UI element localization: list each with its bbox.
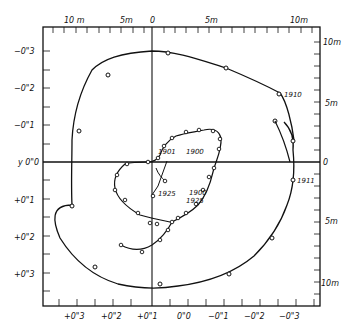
plot-frame (43, 27, 320, 306)
right-label-10m-bottom: 10m (321, 279, 339, 288)
right-label-10m-top: 10m (323, 38, 341, 47)
left-label-plus-0-1: +0"1 (14, 196, 35, 205)
right-ticks (314, 42, 320, 294)
year-label-1901: 1901 (158, 148, 176, 156)
bottom-label-minus-0-2: −0"2 (244, 312, 265, 321)
bottom-label-plus-0-1: +0"1 (137, 312, 158, 321)
top-label-0: 0 (150, 16, 155, 25)
polar-motion-figure: 10 m 5m 0 5m 10m 10m 5m 0 5m 10m −0"3 −0… (0, 0, 356, 336)
right-label-0: 0 (323, 158, 328, 167)
outer-spiral-markers (70, 51, 295, 286)
left-label-plus-0-3: +0"3 (14, 270, 35, 279)
top-ticks (53, 27, 312, 33)
year-label-1925-bottom: 1925 (186, 197, 204, 205)
right-label-5m-top: 5m (325, 99, 338, 108)
left-ticks (43, 51, 50, 291)
bottom-label-minus-0-3: −0"3 (279, 312, 300, 321)
top-label-10m-right: 10m (290, 16, 308, 25)
year-label-1910: 1910 (284, 91, 302, 99)
outer-spiral-curve (55, 51, 294, 288)
top-label-5m-left: 5m (120, 16, 133, 25)
bottom-ticks (59, 299, 314, 306)
bottom-label-plus-0-2: +0"2 (101, 312, 122, 321)
top-label-10m-left: 10 m (64, 16, 85, 25)
year-label-1900-bottom: 1900 (189, 189, 207, 197)
year-label-1925-left: 1925 (158, 190, 176, 198)
bottom-label-0-0: 0"0 (177, 312, 191, 321)
left-label-minus-0-2: −0"2 (14, 84, 35, 93)
right-label-5m-bottom: 5m (325, 217, 338, 226)
bottom-label-plus-0-3: +0"3 (64, 312, 85, 321)
left-label-origin: y 0"0 (17, 158, 39, 167)
left-label-minus-0-3: −0"3 (14, 47, 35, 56)
left-label-minus-0-1: −0"1 (14, 121, 35, 130)
year-label-1911: 1911 (297, 177, 315, 185)
top-label-5m-right: 5m (205, 16, 218, 25)
left-label-plus-0-2: +0"2 (14, 233, 35, 242)
bottom-label-minus-0-1: −0"1 (208, 312, 229, 321)
year-label-1900-top: 1900 (186, 148, 204, 156)
